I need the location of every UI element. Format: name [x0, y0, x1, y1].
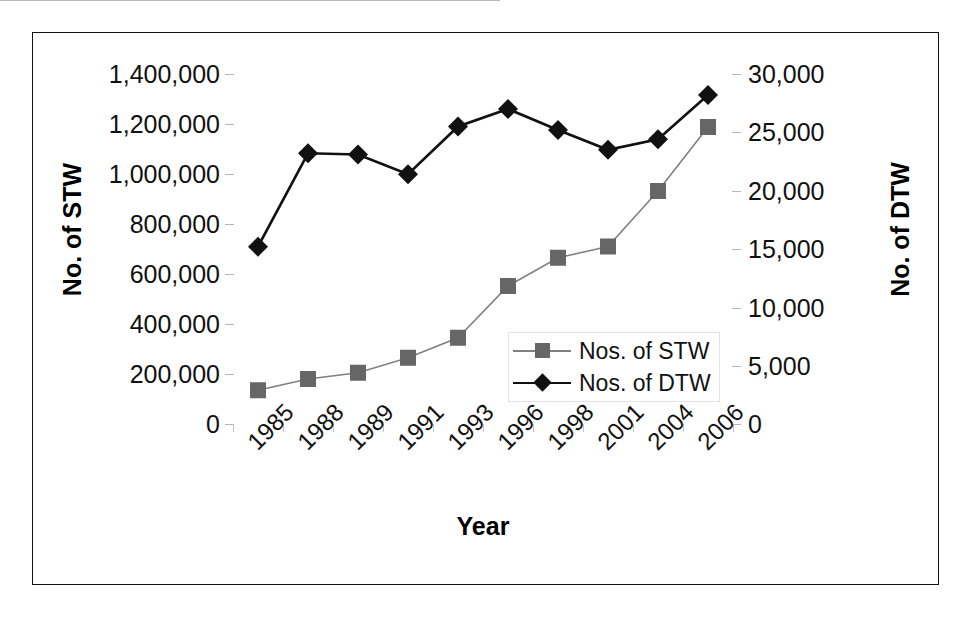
y-axis-left-tick-label: 200,000	[40, 362, 220, 387]
y-axis-right-tick-label: 5,000	[748, 354, 908, 379]
y-axis-left-title: No. of STW	[58, 100, 87, 360]
y-axis-right-tick	[732, 249, 741, 250]
y-axis-left-tick	[225, 74, 234, 75]
y-axis-left-tick	[225, 274, 234, 275]
y-axis-right-tick	[732, 366, 741, 367]
y-axis-left-tick	[225, 124, 234, 125]
y-axis-right-tick	[732, 191, 741, 192]
y-axis-left-tick	[225, 224, 234, 225]
legend-label-stw: Nos. of STW	[579, 338, 709, 365]
x-axis-title: Year	[233, 512, 733, 541]
legend[interactable]: Nos. of STW Nos. of DTW	[508, 332, 720, 402]
legend-label-dtw: Nos. of DTW	[579, 370, 711, 397]
y-axis-right-tick	[732, 132, 741, 133]
y-axis-right-tick-label: 20,000	[748, 179, 908, 204]
y-axis-right-tick-label: 30,000	[748, 62, 908, 87]
y-axis-left-tick	[225, 374, 234, 375]
y-axis-left-tick	[225, 324, 234, 325]
y-axis-right-tick-label: 25,000	[748, 120, 908, 145]
y-axis-left-tick	[225, 174, 234, 175]
legend-marker-square-icon	[535, 343, 550, 358]
x-axis-tick	[233, 424, 234, 432]
y-axis-right-tick	[732, 74, 741, 75]
y-axis-right-tick	[732, 308, 741, 309]
y-axis-left-tick-label: 1,400,000	[40, 62, 220, 87]
y-axis-left-tick-label: 0	[40, 412, 220, 437]
y-axis-right-tick-label: 10,000	[748, 296, 908, 321]
legend-item-dtw[interactable]: Nos. of DTW	[513, 367, 717, 399]
y-axis-right-title: No. of DTW	[886, 100, 915, 360]
figure-canvas: 1,400,000 1,200,000 1,000,000 800,000 60…	[0, 0, 969, 619]
y-axis-right-tick-label: 0	[748, 412, 908, 437]
legend-marker-diamond-icon	[533, 373, 551, 391]
legend-item-stw[interactable]: Nos. of STW	[513, 335, 717, 367]
y-axis-right-tick-label: 15,000	[748, 237, 908, 262]
